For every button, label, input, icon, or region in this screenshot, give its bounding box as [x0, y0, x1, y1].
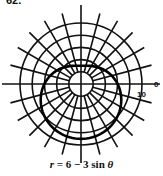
angle-zero-label: 0 — [154, 80, 159, 89]
equation-caption: r = 6 − 3 sin θ — [0, 158, 163, 170]
caption-body: = 6 − 3 sin — [54, 158, 108, 170]
grid-radial-line — [29, 32, 72, 75]
caption-theta: θ — [108, 158, 114, 170]
radius-ten-label: 10 — [137, 90, 146, 99]
grid-radial-line — [29, 93, 72, 136]
grid-radial-line — [90, 32, 133, 75]
polar-plot: 0 10 — [0, 0, 163, 176]
grid-radial-line — [90, 93, 133, 136]
